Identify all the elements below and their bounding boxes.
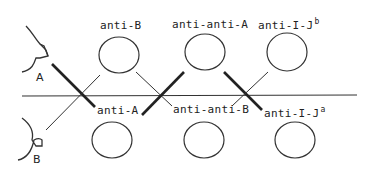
circle-anti-anti-a <box>185 34 225 70</box>
label-anti-i-j-b: anti-I-Jb <box>258 17 320 32</box>
superscript-b: b <box>314 17 319 26</box>
circle-anti-i-j-b <box>267 33 307 71</box>
horizontal-axis-line <box>22 95 357 96</box>
bold-link-a-to-anti-a <box>52 64 95 107</box>
segment-label-a: A <box>36 71 44 84</box>
superscript-a: a <box>320 105 325 114</box>
circle-anti-i-j-a <box>275 122 315 158</box>
label-anti-b: anti-B <box>100 19 142 32</box>
circle-anti-anti-b <box>184 122 224 158</box>
label-anti-a: anti-A <box>97 104 139 117</box>
segment-label-b: B <box>33 153 41 166</box>
circle-anti-b <box>99 37 139 73</box>
label-anti-i-j-a: anti-I-Ja <box>264 105 326 120</box>
thin-link-anti-anti-b-to-anti-i-j-b <box>232 72 268 106</box>
label-anti-anti-a: anti-anti-A <box>172 18 248 31</box>
label-anti-anti-b: anti-anti-B <box>173 103 249 116</box>
circle-anti-a <box>92 122 132 158</box>
